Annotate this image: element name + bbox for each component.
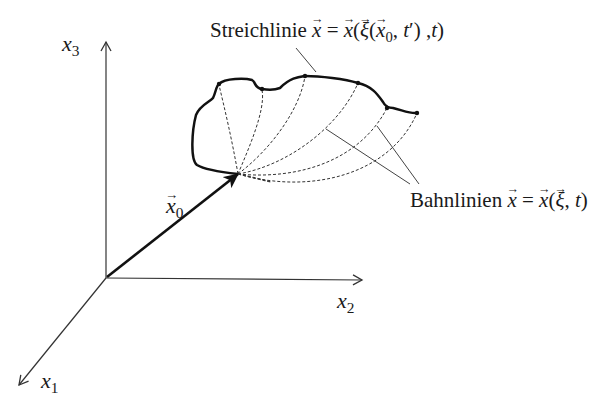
- x1-label-base: x: [41, 368, 51, 393]
- pathline-2: [238, 90, 263, 174]
- x0-label-base: x: [166, 195, 176, 217]
- streakline-leader: [296, 48, 316, 72]
- pathline-6: [238, 113, 417, 182]
- x1-axis: [19, 278, 106, 385]
- particle-dot: [385, 106, 389, 110]
- pathlines-leader-1: [326, 129, 410, 184]
- pathlines-word: Bahnlinien: [410, 188, 502, 212]
- x2-label-base: x: [337, 288, 347, 313]
- x1-label-subscript: 1: [51, 379, 59, 396]
- streakline-word: Streichlinie: [210, 18, 307, 42]
- particle-dot: [356, 81, 360, 85]
- pathline-1: [219, 85, 238, 174]
- streakline-caption: Streichlinie x = x(ξ(x0, t′) ,t): [210, 20, 444, 45]
- diagram-canvas: x3 x2 x1 x0 Streichlinie x = x(ξ(x0, t′)…: [0, 0, 614, 405]
- particle-dot: [260, 87, 264, 91]
- x3-label-base: x: [62, 31, 72, 56]
- x3-label-subscript: 3: [72, 42, 80, 59]
- pathline-4: [238, 83, 358, 174]
- particle-dot: [415, 111, 419, 115]
- position-vector-label: x0: [166, 195, 183, 221]
- leader-lines: [296, 48, 419, 184]
- x1-axis-label: x1: [41, 370, 58, 396]
- pathline-5: [238, 108, 387, 175]
- particle-dot: [303, 74, 307, 78]
- streakline: [192, 76, 417, 174]
- particle-dot: [217, 82, 221, 86]
- pathlines: [219, 76, 417, 182]
- pathlines-caption: Bahnlinien x = x(ξ, t): [410, 190, 588, 211]
- coordinate-axes: [19, 42, 362, 385]
- x2-label-subscript: 2: [347, 299, 355, 316]
- x0-label-subscript: 0: [176, 204, 184, 221]
- x3-axis-label: x3: [62, 33, 79, 59]
- x2-axis-label: x2: [337, 290, 354, 316]
- x2-axis: [106, 278, 362, 280]
